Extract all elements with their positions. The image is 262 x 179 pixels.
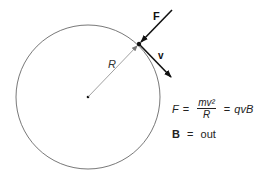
- force-equation: F = mv² R = qvB: [172, 97, 253, 120]
- eq-fraction: mv² R: [197, 97, 216, 120]
- eq-equals-1: =: [183, 103, 189, 115]
- radius-arrow: [88, 46, 137, 97]
- field-direction: B = out: [172, 128, 216, 140]
- eq-lhs: F: [172, 103, 179, 115]
- force-label: F: [153, 11, 160, 22]
- velocity-arrow: [139, 44, 171, 77]
- field-value: out: [201, 128, 216, 140]
- eq-equals-2: =: [224, 103, 230, 115]
- field-equals: =: [187, 128, 193, 140]
- eq-denominator: R: [203, 109, 210, 120]
- eq-rhs: qvB: [234, 103, 253, 115]
- diagram-canvas: [0, 0, 262, 179]
- velocity-label: v: [158, 51, 164, 61]
- field-symbol: B: [172, 128, 180, 140]
- eq-numerator: mv²: [197, 97, 216, 109]
- particle-dot: [137, 42, 141, 46]
- radius-label: R: [108, 59, 116, 70]
